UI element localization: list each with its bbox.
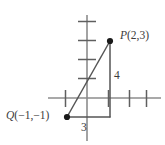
- point-p-marker: [107, 38, 113, 44]
- vertical-leg-length-label: 4: [114, 70, 120, 82]
- point-p-label: P(2,3): [120, 30, 149, 42]
- horizontal-leg-length-label: 3: [81, 122, 87, 134]
- point-p-coords: (2,3): [127, 29, 149, 41]
- point-q-marker: [64, 114, 70, 120]
- coordinate-plane-figure: P(2,3) Q(−1,−1) 4 3: [0, 0, 165, 145]
- point-q-coords: (−1,−1): [14, 109, 49, 121]
- hypotenuse-segment: [67, 41, 110, 117]
- point-p-name: P: [120, 29, 127, 41]
- point-q-label: Q(−1,−1): [6, 110, 49, 122]
